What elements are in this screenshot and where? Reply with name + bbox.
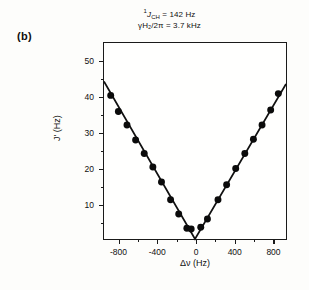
plot-frame: -800-40004008001020304050	[103, 42, 287, 240]
fit-line-path	[104, 81, 286, 239]
y-tick-label: 10	[85, 200, 94, 210]
y-tick-minor	[101, 79, 104, 80]
data-point	[107, 92, 114, 99]
y-tick-major	[99, 169, 104, 170]
y-tick-minor	[101, 115, 104, 116]
annotation-coupling-constant: 1JCH = 142 Hz	[30, 8, 309, 21]
data-point	[215, 196, 222, 203]
data-point	[223, 181, 230, 188]
data-point	[149, 164, 156, 171]
x-tick-major	[196, 239, 197, 244]
annotation-field-strength: γH₂/2π = 3.7 kHz	[30, 21, 309, 30]
x-tick-minor	[215, 239, 216, 242]
y-tick-major	[99, 133, 104, 134]
plot-canvas	[104, 43, 286, 239]
y-tick-major	[99, 61, 104, 62]
data-point	[204, 216, 211, 223]
x-tick-minor	[177, 239, 178, 242]
y-tick-label: 20	[85, 164, 94, 174]
data-point	[175, 211, 182, 218]
data-point	[275, 90, 282, 97]
data-point	[267, 107, 274, 114]
data-point	[232, 165, 239, 172]
y-tick-label: 30	[85, 128, 94, 138]
y-tick-minor	[101, 151, 104, 152]
x-tick-major	[235, 239, 236, 244]
y-axis-label: J' (Hz)	[52, 115, 62, 141]
y-tick-minor	[101, 187, 104, 188]
x-axis-label: Δν (Hz)	[103, 258, 287, 268]
annotation-block: 1JCH = 142 Hz γH₂/2π = 3.7 kHz	[0, 8, 309, 31]
data-point	[132, 136, 139, 143]
data-point	[188, 226, 195, 233]
data-point	[141, 150, 148, 157]
data-markers	[107, 90, 282, 232]
x-tick-minor	[254, 239, 255, 242]
data-point	[158, 179, 165, 186]
x-tick-major	[273, 239, 274, 244]
x-tick-label: 0	[194, 247, 199, 257]
x-tick-major	[119, 239, 120, 244]
x-tick-label: 400	[228, 247, 242, 257]
y-tick-label: 50	[85, 56, 94, 66]
fit-line	[104, 81, 286, 239]
y-tick-label: 40	[85, 92, 94, 102]
x-tick-label: -800	[110, 247, 127, 257]
data-point	[259, 121, 266, 128]
panel-label: (b)	[17, 30, 32, 42]
data-point	[124, 121, 131, 128]
data-point	[115, 108, 122, 115]
x-tick-label: 800	[266, 247, 280, 257]
x-tick-minor	[138, 239, 139, 242]
figure-panel-b: (b) 1JCH = 142 Hz γH₂/2π = 3.7 kHz -800-…	[0, 0, 309, 290]
y-tick-minor	[101, 223, 104, 224]
y-tick-major	[99, 97, 104, 98]
x-tick-label: -400	[149, 247, 166, 257]
data-point	[167, 196, 174, 203]
data-point	[250, 136, 257, 143]
annotation-subscript-ch: CH	[151, 14, 160, 20]
annotation-coupling-value: = 142 Hz	[160, 10, 195, 19]
x-tick-major	[157, 239, 158, 244]
y-tick-major	[99, 205, 104, 206]
data-point	[241, 150, 248, 157]
data-point	[197, 224, 204, 231]
